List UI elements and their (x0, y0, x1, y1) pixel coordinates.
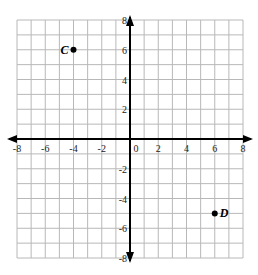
x-tick-label: 6 (212, 143, 217, 154)
y-tick-label: 6 (122, 45, 127, 56)
x-tick-label: 0 (134, 143, 139, 154)
point-d (212, 210, 218, 216)
y-tick-label: 8 (122, 15, 127, 26)
y-tick-label: -4 (119, 194, 127, 205)
x-tick-label: 8 (241, 143, 246, 154)
point-label-d: D (219, 206, 229, 220)
point-label-c: C (60, 43, 69, 57)
x-tick-label: -2 (98, 143, 106, 154)
x-axis-arrow-left-icon (7, 135, 17, 143)
x-axis-arrow-right-icon (243, 135, 253, 143)
y-tick-label: 2 (122, 104, 127, 115)
y-tick-label: -8 (119, 253, 127, 264)
point-c (71, 47, 77, 53)
coordinate-plane: -8-6-4-2024688642-2-4-6-8CD (0, 0, 258, 275)
x-tick-label: -8 (13, 143, 21, 154)
x-tick-label: -6 (41, 143, 49, 154)
y-tick-label: 4 (122, 75, 127, 86)
y-tick-label: -6 (119, 223, 127, 234)
x-tick-label: 4 (184, 143, 189, 154)
y-tick-label: -2 (119, 164, 127, 175)
x-tick-label: -4 (69, 143, 77, 154)
x-tick-label: 2 (156, 143, 161, 154)
